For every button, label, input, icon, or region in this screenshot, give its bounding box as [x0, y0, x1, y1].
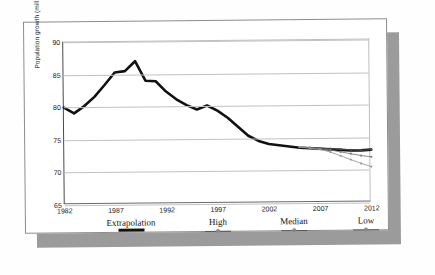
series-marker-high	[350, 149, 352, 151]
y-axis-tick-label: 85	[53, 71, 61, 78]
y-axis-tick-label: 90	[52, 39, 60, 46]
x-axis-tick-label: 1982	[57, 207, 73, 214]
thin-line-marker-swatch	[281, 227, 307, 233]
series-marker-median	[370, 156, 372, 158]
series-marker-high	[339, 148, 341, 150]
x-axis-tick-label: 1987	[108, 207, 124, 214]
legend-label: Extrapolation	[106, 217, 155, 227]
legend-label: High	[205, 217, 231, 227]
thin-line-marker-swatch	[205, 228, 231, 234]
series-marker-low	[339, 155, 341, 157]
legend-item-low[interactable]: Low	[353, 215, 379, 232]
y-axis-tick-label: 70	[54, 169, 62, 176]
chart-legend: ExtrapolationHighMedianLow	[66, 215, 386, 242]
series-marker-median	[329, 149, 331, 151]
legend-item-median[interactable]: Median	[280, 216, 308, 233]
thick-line-swatch	[118, 229, 144, 233]
y-axis-tick-label: 80	[53, 104, 61, 111]
x-axis-tick-label: 2002	[262, 205, 278, 212]
series-marker-low	[319, 148, 321, 150]
series-marker-low	[360, 162, 362, 164]
y-axis-tick-label: 75	[53, 137, 61, 144]
x-axis-tick-label: 2007	[313, 205, 329, 212]
series-marker-high	[360, 149, 362, 151]
x-axis-tick-label: 1997	[210, 206, 226, 213]
series-marker-high	[370, 148, 372, 150]
legend-item-high[interactable]: High	[205, 217, 231, 234]
chart-series-layer	[63, 39, 372, 205]
legend-item-extrapolation[interactable]: Extrapolation	[106, 217, 155, 232]
series-marker-median	[360, 154, 362, 156]
chart-plot-area: Population growth (millions) 65707580859…	[62, 38, 371, 204]
figure-paper-card: Population growth (millions) 65707580859…	[23, 18, 389, 233]
series-marker-low	[329, 151, 331, 153]
series-marker-low	[350, 158, 352, 160]
y-axis-label: Population growth (millions)	[32, 0, 40, 69]
series-marker-median	[350, 153, 352, 155]
series-marker-median	[339, 151, 341, 153]
x-axis-tick-label: 2012	[364, 204, 380, 211]
thin-line-marker-swatch	[353, 226, 379, 232]
x-axis-tick-label: 1992	[159, 206, 175, 213]
legend-label: Low	[353, 215, 379, 225]
series-marker-low	[298, 146, 300, 148]
legend-label: Median	[280, 216, 308, 226]
series-marker-low	[370, 165, 372, 167]
figure-scene: Population growth (millions) 65707580859…	[0, 0, 435, 275]
series-marker-low	[309, 147, 311, 149]
